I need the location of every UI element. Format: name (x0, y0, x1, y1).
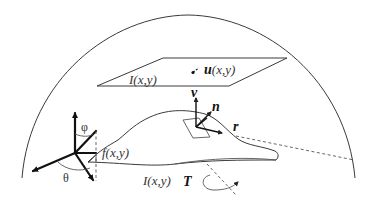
reflect-vector-label: r (233, 119, 239, 134)
normal-vector-label: n (212, 99, 220, 114)
diagram-canvas: I(x,y) u(x,y) u(x,y) v n r T I(x,y) f(x,… (0, 0, 376, 205)
reflect-vector-arrow (196, 127, 222, 133)
reflection-ray (236, 136, 354, 160)
surface-label: f(x,y) (102, 145, 129, 160)
image-plane-label: I(x,y) (128, 72, 157, 87)
translation-label: T (183, 174, 193, 189)
translation-axis (207, 164, 236, 195)
rotation-arc (203, 175, 238, 190)
flow-label: u(x,y) (204, 62, 235, 77)
theta-label: θ (63, 171, 69, 185)
irradiance-label: I(x,y) (142, 173, 171, 188)
surface-underside (175, 158, 276, 164)
phi-label: φ (81, 120, 88, 134)
view-vector-label: v (191, 85, 198, 100)
flow-point (191, 71, 194, 74)
reflect-vector-base (196, 118, 207, 127)
